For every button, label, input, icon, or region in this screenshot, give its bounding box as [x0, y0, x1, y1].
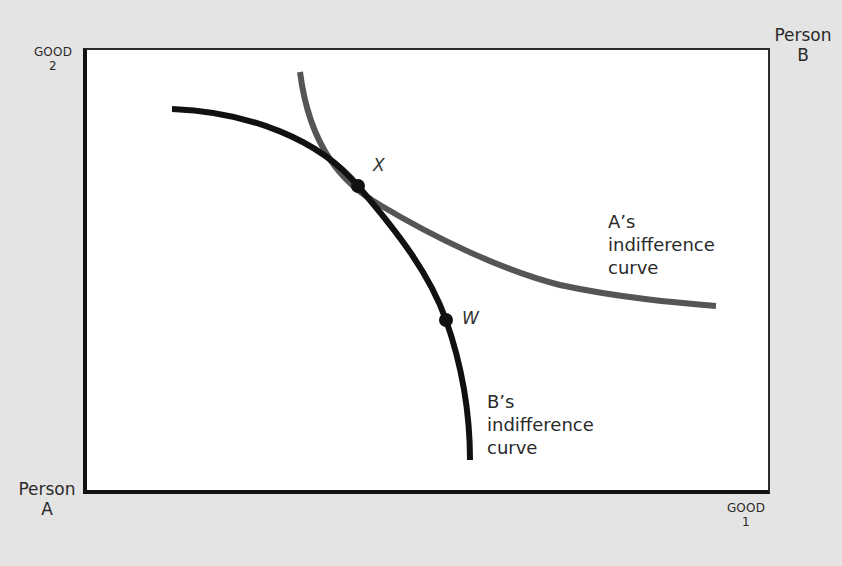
b-curve-label-line1: B’s: [487, 390, 594, 413]
y-axis-label-line2: 2: [28, 60, 78, 74]
point-x-label: X: [373, 155, 385, 175]
origin-b-label: Person B: [768, 26, 838, 65]
point-x-marker: [351, 179, 365, 193]
y-axis-label: GOOD 2: [28, 46, 78, 74]
a-curve-label-line1: A’s: [608, 210, 715, 233]
point-w-label: W: [462, 308, 479, 328]
a-curve-label: A’s indifference curve: [608, 210, 715, 279]
origin-a-line1: Person: [12, 480, 82, 500]
indifference-curves: [0, 0, 842, 566]
b-indifference-curve: [172, 109, 470, 460]
x-axis-label-line2: 1: [720, 516, 772, 530]
origin-a-line2: A: [12, 500, 82, 520]
b-curve-label-line2: indifference: [487, 413, 594, 436]
origin-a-label: Person A: [12, 480, 82, 519]
y-axis-label-line1: GOOD: [28, 46, 78, 60]
b-curve-label-line3: curve: [487, 436, 594, 459]
origin-b-line1: Person: [768, 26, 838, 46]
origin-b-line2: B: [768, 46, 838, 66]
x-axis-label: GOOD 1: [720, 502, 772, 530]
point-w-marker: [439, 313, 453, 327]
x-axis-label-line1: GOOD: [720, 502, 772, 516]
b-curve-label: B’s indifference curve: [487, 390, 594, 459]
a-curve-label-line3: curve: [608, 256, 715, 279]
a-curve-label-line2: indifference: [608, 233, 715, 256]
